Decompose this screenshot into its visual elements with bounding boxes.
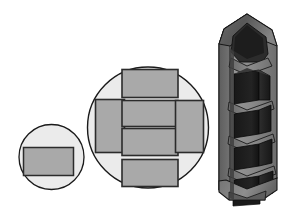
medium-circle-rect-right: [176, 101, 204, 153]
column-cutaway-edge: [230, 48, 234, 200]
medium-circle-rect-center-lower: [122, 129, 178, 156]
column-block-2-side: [259, 105, 271, 134]
column-block-3-side: [259, 139, 272, 166]
small-circle-panel: [19, 125, 84, 190]
column-block-1-face: [234, 70, 259, 104]
column-panel: [219, 14, 277, 206]
column-block-2-face: [234, 110, 259, 138]
technical-illustration: [0, 0, 288, 211]
column-block-3-face: [234, 144, 259, 170]
medium-circle-rect-top: [122, 70, 178, 98]
small-circle-rect-1: [24, 148, 74, 176]
medium-circle-rect-center-upper: [122, 101, 178, 127]
medium-circle-rect-bottom: [122, 160, 178, 187]
diagram-canvas: [0, 0, 288, 211]
medium-circle-panel: [88, 67, 209, 188]
medium-circle-rect-left: [96, 100, 125, 153]
